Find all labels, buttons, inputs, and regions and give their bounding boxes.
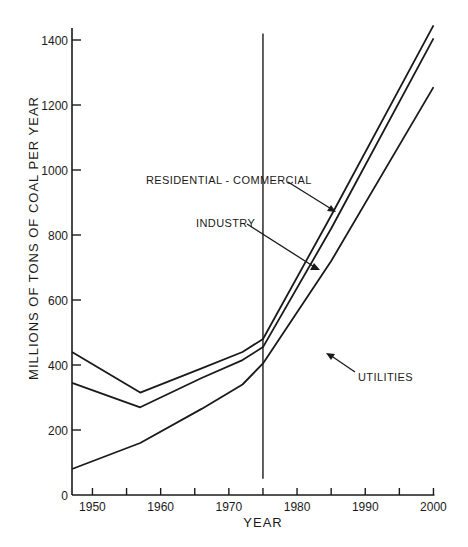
y-tick-label: 600 — [48, 294, 68, 308]
y-tick-label: 1000 — [41, 164, 68, 178]
label-industry: INDUSTRY — [196, 217, 255, 229]
utilities-line — [72, 87, 434, 469]
coal-consumption-chart: 0200400600800100012001400 19501960197019… — [0, 0, 468, 547]
y-tick-label: 1400 — [41, 34, 68, 48]
y-tick-label: 0 — [61, 489, 68, 503]
x-tick-label: 1960 — [147, 500, 174, 514]
x-tick-label: 1990 — [352, 500, 379, 514]
annotation-industry: INDUSTRY — [196, 217, 320, 270]
label-residential-commercial: RESIDENTIAL - COMMERCIAL — [146, 174, 312, 186]
y-tick-label: 400 — [48, 359, 68, 373]
arrowhead-icon — [326, 353, 335, 360]
x-axis-title: YEAR — [243, 515, 282, 530]
annotation-utilities: UTILITIES — [326, 353, 413, 383]
annotation-residential-commercial: RESIDENTIAL - COMMERCIAL — [146, 174, 336, 212]
x-axis: 195019601970198019902000 — [72, 488, 447, 514]
total-line — [72, 25, 434, 392]
x-tick-label: 1980 — [284, 500, 311, 514]
x-tick-label: 1970 — [216, 500, 243, 514]
cumulative-lines — [72, 25, 434, 469]
y-tick-label: 1200 — [41, 99, 68, 113]
label-utilities: UTILITIES — [358, 371, 413, 383]
y-axis: 0200400600800100012001400 — [41, 28, 81, 503]
y-axis-title: MILLIONS OF TONS OF COAL PER YEAR — [26, 96, 41, 380]
y-tick-label: 800 — [48, 229, 68, 243]
x-tick-label: 2000 — [420, 500, 447, 514]
x-tick-label: 1950 — [79, 500, 106, 514]
y-tick-label: 200 — [48, 424, 68, 438]
